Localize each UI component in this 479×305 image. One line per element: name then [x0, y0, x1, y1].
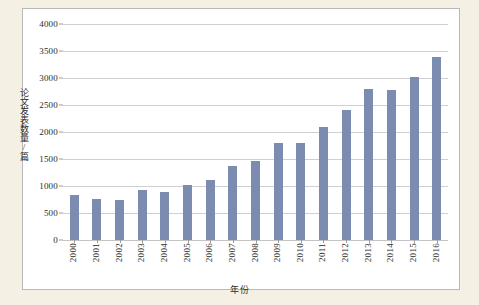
bar	[160, 192, 169, 240]
bar	[251, 161, 260, 240]
x-axis-tick-label: 2000	[69, 243, 78, 262]
bar	[364, 89, 373, 240]
x-axis-tick-label: 2014	[386, 243, 395, 262]
bar	[115, 200, 124, 240]
x-axis-tick-label: 2012	[341, 243, 350, 262]
x-axis-tick-label: 2009	[273, 243, 282, 262]
bar	[319, 127, 328, 240]
bar	[92, 199, 101, 240]
bar	[70, 195, 79, 240]
y-axis-tick-label: 2500	[12, 101, 58, 110]
bar	[342, 110, 351, 240]
x-axis-tick-label: 2001	[92, 243, 101, 262]
bar	[432, 57, 441, 240]
x-axis-tick-label: 2005	[183, 243, 192, 262]
bar	[410, 77, 419, 240]
y-axis-tick-label: 0	[12, 236, 58, 245]
y-axis-tick-labels: 05001000150020002500300035004000	[8, 24, 58, 240]
chart-page: 论文发表数量/篇 0500100015002000250030003500400…	[0, 0, 479, 305]
x-axis-tick-label: 2013	[364, 243, 373, 262]
x-axis-title: 年份	[0, 283, 479, 296]
plot-area	[63, 24, 448, 240]
bar	[296, 143, 305, 240]
x-axis-tick-label: 2002	[115, 243, 124, 262]
x-axis-tick-label: 2006	[205, 243, 214, 262]
x-axis-tick-label: 2015	[409, 243, 418, 262]
y-axis-tick-label: 4000	[12, 20, 58, 29]
y-axis-tick-label: 500	[12, 209, 58, 218]
bar	[183, 185, 192, 240]
gridline	[63, 24, 448, 25]
y-axis-tick-label: 3500	[12, 47, 58, 56]
bar	[387, 90, 396, 240]
x-axis-tick-label: 2016	[432, 243, 441, 262]
y-axis-tick-label: 2000	[12, 128, 58, 137]
x-axis-tick-label: 2010	[296, 243, 305, 262]
bar	[228, 166, 237, 240]
bar	[274, 143, 283, 240]
bar	[206, 180, 215, 240]
x-axis-tick-label: 2004	[160, 243, 169, 262]
x-axis-tick-label: 2008	[251, 243, 260, 262]
bar	[138, 190, 147, 240]
x-axis-tick-label: 2011	[318, 243, 327, 262]
x-axis-tick-label: 2003	[137, 243, 146, 262]
x-axis-tick-labels: 2000200120022003200420052006200720082009…	[63, 243, 448, 283]
y-axis-tick-label: 1000	[12, 182, 58, 191]
y-axis-tick-label: 1500	[12, 155, 58, 164]
y-axis-tick-label: 3000	[12, 74, 58, 83]
gridline	[63, 51, 448, 52]
gridline	[63, 78, 448, 79]
x-axis-tick-label: 2007	[228, 243, 237, 262]
